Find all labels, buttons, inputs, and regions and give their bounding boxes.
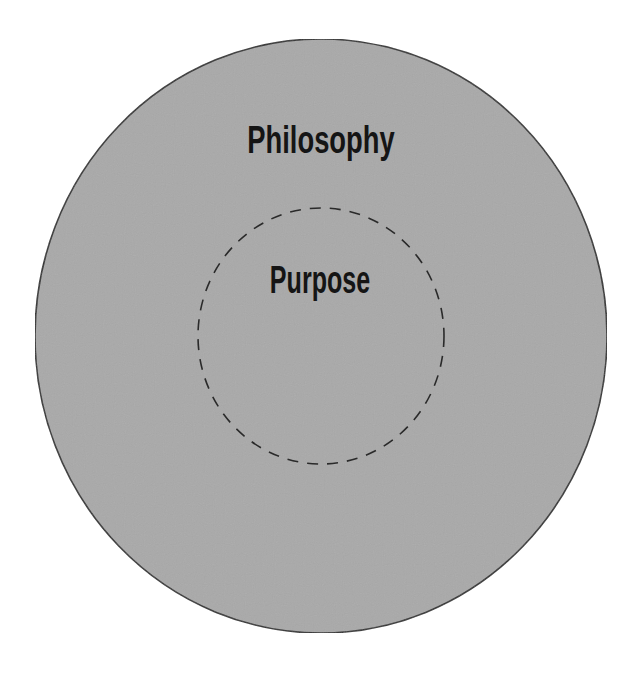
inner-label-purpose: Purpose	[270, 259, 370, 301]
outer-label-philosophy: Philosophy	[247, 119, 395, 161]
philosophy-purpose-diagram: Philosophy Purpose	[0, 0, 643, 680]
